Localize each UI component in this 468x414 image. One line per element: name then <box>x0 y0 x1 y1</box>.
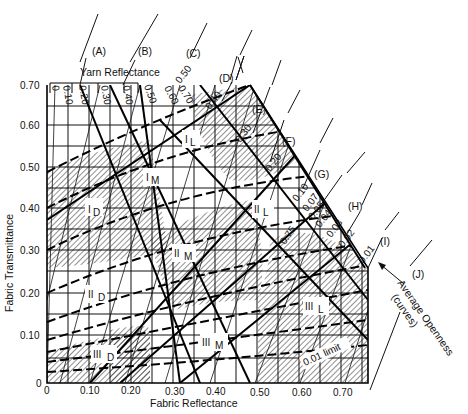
svg-text:0.50: 0.50 <box>20 162 40 173</box>
x-axis-title: Fabric Reflectance <box>150 397 238 409</box>
fabric-chart: 0 0.10 0.20 0.30 0.40 0.50 0.60 0.70 0.7… <box>0 0 468 414</box>
callout-i: (I) <box>380 235 390 247</box>
svg-text:0.20: 0.20 <box>121 385 141 396</box>
svg-text:II: II <box>254 204 260 215</box>
svg-text:D: D <box>107 352 114 363</box>
svg-text:0.40: 0.40 <box>206 386 226 397</box>
svg-text:II: II <box>88 289 94 300</box>
svg-text:III: III <box>305 301 313 312</box>
svg-text:D: D <box>93 207 100 218</box>
svg-text:M: M <box>215 340 223 351</box>
svg-text:0.60: 0.60 <box>20 120 40 131</box>
yarn-reflectance-title: Yarn Reflectance <box>80 66 160 78</box>
svg-text:0: 0 <box>44 385 50 396</box>
callout-c: (C) <box>186 47 201 59</box>
zone-ii-l: II L <box>252 200 274 218</box>
zone-iii-d: III D <box>91 345 117 363</box>
callout-h: (H) <box>348 200 363 212</box>
svg-text:0.10: 0.10 <box>20 330 40 341</box>
zone-ii-d: II D <box>85 285 107 303</box>
svg-text:0.60: 0.60 <box>292 387 312 398</box>
svg-text:0.70: 0.70 <box>333 387 353 398</box>
svg-text:III: III <box>202 337 210 348</box>
svg-text:0.20: 0.20 <box>20 288 40 299</box>
svg-text:0.40: 0.40 <box>121 84 135 106</box>
svg-text:I: I <box>185 134 188 145</box>
svg-text:M: M <box>151 175 159 186</box>
svg-text:I: I <box>146 172 149 183</box>
svg-text:0.40: 0.40 <box>20 203 40 214</box>
svg-text:0.50: 0.50 <box>142 83 159 105</box>
callout-b: (B) <box>138 45 152 57</box>
callout-j: (J) <box>412 268 424 280</box>
svg-text:L: L <box>263 207 269 218</box>
svg-text:0.10: 0.10 <box>61 84 75 106</box>
svg-text:L: L <box>190 137 196 148</box>
svg-text:L: L <box>318 304 324 315</box>
zone-i-m: I M <box>143 168 163 186</box>
svg-text:0.70: 0.70 <box>20 80 40 91</box>
zone-iii-l: III L <box>303 297 329 315</box>
svg-text:II: II <box>174 248 180 259</box>
svg-text:0.50: 0.50 <box>173 63 194 85</box>
svg-text:0.01: 0.01 <box>356 243 377 265</box>
zone-ii-m: II M <box>172 244 196 262</box>
y-axis-ticks: 0 0.10 0.20 0.30 0.40 0.50 0.60 0.70 <box>20 80 42 389</box>
svg-text:0: 0 <box>50 84 62 92</box>
svg-text:0: 0 <box>36 378 42 389</box>
svg-text:0.50: 0.50 <box>250 387 270 398</box>
zone-iii-m: III M <box>200 333 228 351</box>
svg-text:D: D <box>98 292 105 303</box>
callout-f: (F) <box>282 135 295 147</box>
callout-d: (D) <box>219 72 234 84</box>
callout-g: (G) <box>314 168 329 180</box>
svg-text:0.30: 0.30 <box>165 386 185 397</box>
callout-e: (E) <box>252 103 266 115</box>
svg-text:III: III <box>93 349 101 360</box>
average-openness-label: Average Openness (curves) <box>385 277 457 365</box>
svg-text:I: I <box>88 204 91 215</box>
zone-i-d: I D <box>85 198 103 218</box>
zone-i-l: I L <box>182 130 200 148</box>
svg-text:0.20: 0.20 <box>77 84 91 106</box>
svg-text:M: M <box>184 251 192 262</box>
y-axis-title: Fabric Transmittance <box>3 214 15 312</box>
callout-a: (A) <box>92 45 106 57</box>
svg-text:0.30: 0.30 <box>99 84 113 106</box>
svg-text:0.10: 0.10 <box>80 385 100 396</box>
svg-text:0.30: 0.30 <box>20 245 40 256</box>
